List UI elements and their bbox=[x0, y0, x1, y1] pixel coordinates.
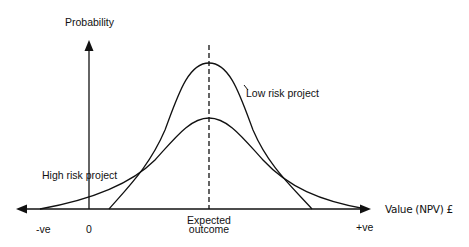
high-risk-project-label: High risk project bbox=[42, 170, 117, 181]
x-axis-label: Value (NPV) £ bbox=[385, 204, 453, 215]
x-tick-negative: -ve bbox=[36, 224, 51, 235]
expected-outcome-label: Expected outcome bbox=[184, 216, 234, 234]
x-tick-zero: 0 bbox=[86, 224, 92, 235]
x-axis-left-arrow-icon bbox=[16, 205, 27, 214]
y-axis-arrow-icon bbox=[85, 40, 94, 51]
low-risk-project-label: Low risk project bbox=[246, 88, 319, 99]
x-tick-positive: +ve bbox=[356, 222, 373, 233]
low-risk-curve bbox=[109, 63, 312, 209]
y-axis-label: Probability bbox=[65, 17, 114, 28]
expected-outcome-label-line2: outcome bbox=[184, 225, 234, 234]
